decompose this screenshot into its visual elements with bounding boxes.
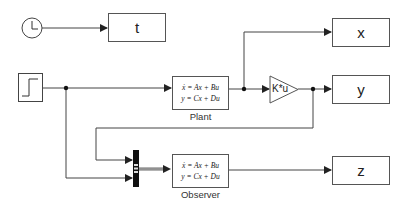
plant-output-equation: y = Cx + Du xyxy=(181,93,219,104)
branch-point-gain xyxy=(311,87,315,91)
line-plant-to-x[interactable] xyxy=(244,32,331,89)
x-block-label: x xyxy=(357,24,365,41)
branch-point-plant xyxy=(242,87,246,91)
t-output-block[interactable]: t xyxy=(108,13,166,42)
observer-output-equation: y = Cx + Du xyxy=(181,171,219,182)
clock-icon[interactable] xyxy=(22,18,42,38)
plant-state-space-block[interactable]: ẋ = Ax + Bu y = Cx + Du xyxy=(172,76,229,110)
t-block-label: t xyxy=(135,19,139,36)
z-output-block[interactable]: z xyxy=(332,156,390,185)
y-output-block[interactable]: y xyxy=(332,75,390,104)
observer-label: Observer xyxy=(162,189,239,200)
plant-state-equation: ẋ = Ax + Bu xyxy=(182,82,219,93)
observer-state-space-block[interactable]: ẋ = Ax + Bu y = Cx + Du xyxy=(172,154,229,188)
plant-label: Plant xyxy=(172,111,229,122)
observer-state-equation: ẋ = Ax + Bu xyxy=(182,160,219,171)
gain-label: K*u xyxy=(272,83,288,94)
z-block-label: z xyxy=(357,162,365,179)
line-step-to-mux[interactable] xyxy=(66,88,132,178)
line-mux-to-observer[interactable] xyxy=(139,165,171,173)
branch-point-step xyxy=(64,86,68,90)
step-icon[interactable] xyxy=(19,74,43,102)
y-block-label: y xyxy=(357,81,365,98)
mux-icon[interactable] xyxy=(133,150,139,187)
x-output-block[interactable]: x xyxy=(332,18,390,47)
